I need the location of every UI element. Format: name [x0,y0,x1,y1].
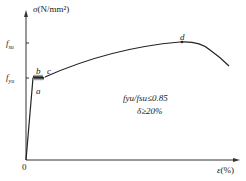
yield-plateau [33,76,44,79]
y-axis-label: σ(N/mm²) [33,5,69,14]
fsu-label: fsu [6,39,14,50]
ratio-annotation: fyu/fsu≤0.85 [123,94,168,103]
point-c-label: c [47,67,51,76]
y-axis-arrow [24,10,28,17]
hardening-curve [45,42,229,77]
x-axis-label: ε(%) [217,166,234,175]
elastic-segment [26,78,33,160]
x-axis-arrow [233,158,240,162]
point-a-label: a [36,87,41,96]
origin-label: 0 [22,163,27,172]
point-d-label: d [180,33,185,42]
fyu-label: fyu [6,73,14,84]
elongation-annotation: δ≥20% [137,107,163,116]
point-b-label: b [36,67,41,76]
